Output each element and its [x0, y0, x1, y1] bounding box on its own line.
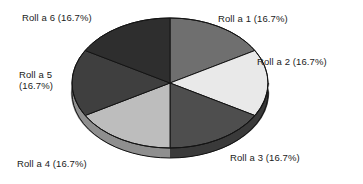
pie-top-face — [72, 18, 268, 148]
pie-label-roll-a-6: Roll a 6 (16.7%) — [22, 12, 92, 23]
pie-chart-figure: Roll a 1 (16.7%) Roll a 2 (16.7%) Roll a… — [0, 0, 363, 184]
pie-chart-graphic — [0, 0, 363, 184]
pie-label-roll-a-5: Roll a 5(16.7%) — [19, 69, 53, 91]
pie-label-roll-a-4: Roll a 4 (16.7%) — [17, 158, 87, 169]
pie-label-roll-a-2: Roll a 2 (16.7%) — [257, 56, 327, 67]
pie-label-roll-a-3: Roll a 3 (16.7%) — [230, 152, 300, 163]
pie-label-roll-a-1: Roll a 1 (16.7%) — [218, 13, 288, 24]
pie-label-roll-a-5-line2: (16.7%) — [19, 80, 53, 91]
pie-label-roll-a-5-line1: Roll a 5 — [19, 69, 52, 80]
